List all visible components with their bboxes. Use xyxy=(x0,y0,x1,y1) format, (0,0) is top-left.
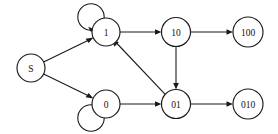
edge-01-to-010 xyxy=(191,101,234,107)
arrow-head-icon xyxy=(86,38,94,43)
node-0[interactable]: 0 xyxy=(92,90,120,118)
node-010[interactable]: 010 xyxy=(233,89,263,119)
diagram-canvas: S 1 10 100 0 01 xyxy=(0,0,278,134)
arrow-head-icon xyxy=(173,83,179,90)
state-diagram: S 1 10 100 0 01 xyxy=(0,0,278,134)
edge-line xyxy=(44,40,89,62)
node-circle[interactable] xyxy=(92,90,120,118)
arrow-head-icon xyxy=(227,29,234,35)
edge-10-to-100 xyxy=(191,29,234,35)
node-1[interactable]: 1 xyxy=(92,18,120,46)
node-circle[interactable] xyxy=(162,18,191,47)
arrow-head-icon xyxy=(227,101,234,107)
edge-0-to-01 xyxy=(120,101,162,107)
edge-S-to-1 xyxy=(44,38,94,62)
node-circle[interactable] xyxy=(92,18,120,46)
edge-1-to-10 xyxy=(120,29,162,35)
edge-layer xyxy=(44,29,233,107)
edge-01-to-1 xyxy=(113,39,166,95)
node-circle[interactable] xyxy=(233,89,263,119)
node-S[interactable]: S xyxy=(17,54,45,82)
edge-S-to-0 xyxy=(44,74,94,98)
arrow-head-icon xyxy=(86,93,94,98)
node-100[interactable]: 100 xyxy=(233,17,263,47)
node-01[interactable]: 01 xyxy=(162,90,191,119)
edge-line xyxy=(44,74,89,96)
node-circle[interactable] xyxy=(233,17,263,47)
node-10[interactable]: 10 xyxy=(162,18,191,47)
arrow-head-icon xyxy=(155,101,162,107)
edge-line xyxy=(117,43,166,94)
edge-10-to-01 xyxy=(173,47,179,90)
node-circle[interactable] xyxy=(162,90,191,119)
arrow-head-icon xyxy=(155,29,162,35)
node-circle[interactable] xyxy=(17,54,45,82)
